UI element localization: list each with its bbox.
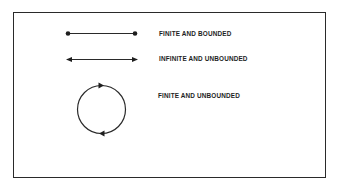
label-finite-unbounded: FINITE AND UNBOUNDED <box>158 92 240 99</box>
label-finite-bounded: FINITE AND BOUNDED <box>159 30 231 37</box>
double-arrow-line-icon <box>66 57 138 62</box>
line-segment-icon <box>66 31 138 36</box>
circle-with-arrows-icon <box>78 83 126 137</box>
label-infinite-unbounded: INFINITE AND UNBOUNDED <box>159 55 248 62</box>
